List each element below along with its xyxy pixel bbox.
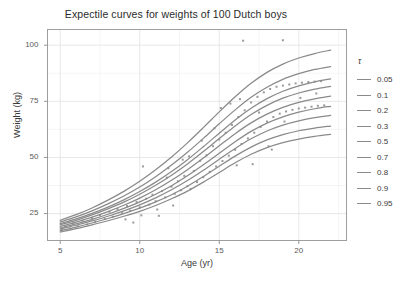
- scatter-point: [282, 85, 284, 87]
- scatter-point: [212, 145, 214, 147]
- legend-item[interactable]: 0.9: [357, 181, 413, 197]
- x-tick-label: 15: [207, 246, 231, 255]
- legend-item-label: 0.8: [377, 168, 388, 177]
- legend-item[interactable]: 0.05: [357, 72, 413, 88]
- y-tick-label: 50: [15, 152, 39, 161]
- legend-rows: 0.050.10.20.30.50.70.80.90.95: [357, 72, 413, 212]
- legend-item[interactable]: 0.1: [357, 88, 413, 104]
- scatter-point: [263, 91, 265, 93]
- scatter-point: [258, 112, 260, 114]
- scatter-point: [156, 209, 158, 211]
- scatter-point: [276, 86, 278, 88]
- scatter-point: [256, 96, 258, 98]
- scatter-point: [183, 175, 185, 177]
- scatter-point: [132, 222, 134, 224]
- legend-item-label: 0.3: [377, 122, 388, 131]
- plot-canvas: [0, 0, 415, 283]
- scatter-point: [188, 155, 190, 157]
- scatter-point: [247, 137, 249, 139]
- legend-line-icon: [357, 126, 371, 127]
- legend-item[interactable]: 0.5: [357, 134, 413, 150]
- x-tick-label: 20: [287, 246, 311, 255]
- legend-item[interactable]: 0.2: [357, 103, 413, 119]
- legend-line-icon: [357, 141, 371, 142]
- scatter-point: [304, 107, 306, 109]
- scatter-point: [285, 110, 287, 112]
- legend-item[interactable]: 0.7: [357, 150, 413, 166]
- scatter-point: [269, 88, 271, 90]
- scatter-point: [236, 164, 238, 166]
- legend-item-label: 0.1: [377, 91, 388, 100]
- y-tick-label: 25: [15, 208, 39, 217]
- y-tick-label: 100: [15, 40, 39, 49]
- scatter-point: [239, 98, 241, 100]
- panel-background: [48, 30, 347, 241]
- legend: τ 0.050.10.20.30.50.70.80.90.95: [357, 56, 413, 212]
- scatter-point: [323, 104, 325, 106]
- scatter-point: [283, 121, 285, 123]
- legend-item[interactable]: 0.8: [357, 165, 413, 181]
- legend-item[interactable]: 0.3: [357, 119, 413, 135]
- legend-item[interactable]: 0.95: [357, 196, 413, 212]
- scatter-point: [182, 159, 184, 161]
- x-axis-label: Age (yr): [47, 258, 347, 268]
- scatter-point: [244, 109, 246, 111]
- legend-item-label: 0.95: [377, 199, 393, 208]
- legend-item-label: 0.7: [377, 153, 388, 162]
- scatter-point: [158, 215, 160, 217]
- scatter-point: [252, 163, 254, 165]
- scatter-point: [253, 132, 255, 134]
- scatter-point: [140, 214, 142, 216]
- legend-line-icon: [357, 110, 371, 111]
- legend-item-label: 0.2: [377, 106, 388, 115]
- scatter-point: [317, 105, 319, 107]
- x-tick-label: 5: [48, 246, 72, 255]
- legend-title: τ: [357, 56, 413, 66]
- legend-line-icon: [357, 95, 371, 96]
- scatter-point: [221, 160, 223, 162]
- scatter-point: [142, 165, 144, 167]
- legend-line-icon: [357, 203, 371, 204]
- scatter-point: [282, 39, 284, 41]
- legend-line-icon: [357, 157, 371, 158]
- scatter-point: [288, 83, 290, 85]
- legend-item-label: 0.9: [377, 184, 388, 193]
- scatter-point: [250, 101, 252, 103]
- chart-root: Expectile curves for weights of 100 Dutc…: [0, 0, 415, 283]
- scatter-point: [172, 204, 174, 206]
- scatter-point: [298, 108, 300, 110]
- scatter-point: [242, 40, 244, 42]
- legend-line-icon: [357, 79, 371, 80]
- scatter-point: [291, 109, 293, 111]
- scatter-point: [311, 106, 313, 108]
- y-axis-label: Weight (kg): [12, 75, 22, 155]
- legend-line-icon: [357, 188, 371, 189]
- legend-line-icon: [357, 172, 371, 173]
- scatter-point: [295, 82, 297, 84]
- scatter-point: [279, 113, 281, 115]
- scatter-point: [231, 124, 233, 126]
- scatter-point: [220, 107, 222, 109]
- legend-item-label: 0.5: [377, 137, 388, 146]
- scatter-point: [228, 155, 230, 157]
- legend-item-label: 0.05: [377, 75, 393, 84]
- scatter-point: [315, 92, 317, 94]
- scatter-point: [271, 149, 273, 151]
- scatter-point: [272, 116, 274, 118]
- y-tick-label: 75: [15, 96, 39, 105]
- scatter-point: [299, 97, 301, 99]
- scatter-point: [124, 218, 126, 220]
- scatter-point: [301, 82, 303, 84]
- scatter-point: [229, 103, 231, 105]
- x-tick-label: 10: [128, 246, 152, 255]
